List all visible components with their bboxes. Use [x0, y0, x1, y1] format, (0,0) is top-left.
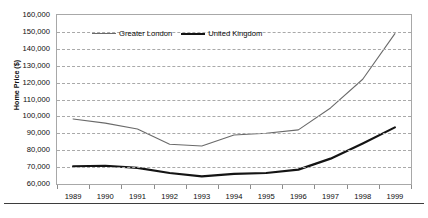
x-tick-mark — [250, 185, 251, 189]
y-axis-tick-labels: 60,00070,00080,00090,000100,000110,00012… — [8, 14, 53, 185]
x-tick-mark — [121, 185, 122, 189]
x-tick-mark — [186, 185, 187, 189]
x-tick-label: 1999 — [373, 192, 417, 201]
legend-entry-greater-london: Greater London — [92, 29, 172, 38]
y-tick-label: 140,000 — [6, 45, 50, 53]
gridline — [57, 133, 411, 134]
y-tick-label: 60,000 — [6, 180, 50, 188]
legend-line-swatch-greater-london — [92, 33, 116, 34]
gridline — [57, 150, 411, 151]
gridline — [57, 116, 411, 117]
legend-label-greater-london: Greater London — [119, 29, 172, 38]
gridline — [57, 66, 411, 67]
y-tick-label: 120,000 — [6, 79, 50, 87]
legend-entry-united-kingdom: United Kingdom — [172, 29, 262, 38]
x-tick-mark — [411, 185, 412, 189]
x-tick-mark — [57, 185, 58, 189]
y-tick-label: 70,000 — [6, 163, 50, 171]
chart-legend: Greater London United Kingdom — [92, 28, 262, 39]
gridline — [57, 167, 411, 168]
y-tick-label: 100,000 — [6, 112, 50, 120]
x-tick-mark — [347, 185, 348, 189]
x-tick-mark — [218, 185, 219, 189]
y-tick-label: 110,000 — [6, 96, 50, 104]
gridline — [57, 83, 411, 84]
x-tick-mark — [282, 185, 283, 189]
x-tick-mark — [379, 185, 380, 189]
gridline — [57, 49, 411, 50]
y-tick-label: 80,000 — [6, 146, 50, 154]
x-tick-mark — [154, 185, 155, 189]
series-line-greater-london — [73, 34, 395, 146]
x-tick-mark — [314, 185, 315, 189]
gridline — [57, 100, 411, 101]
legend-line-swatch-united-kingdom — [181, 33, 205, 35]
y-tick-label: 90,000 — [6, 129, 50, 137]
y-tick-label: 130,000 — [6, 62, 50, 70]
y-tick-label: 160,000 — [6, 11, 50, 19]
y-tick-label: 150,000 — [6, 28, 50, 36]
plot-area — [56, 14, 412, 185]
x-tick-mark — [89, 185, 90, 189]
legend-label-united-kingdom: United Kingdom — [208, 29, 262, 38]
bottom-divider — [4, 203, 424, 204]
home-price-line-chart: Home Price ($) 60,00070,00080,00090,0001… — [0, 0, 428, 218]
